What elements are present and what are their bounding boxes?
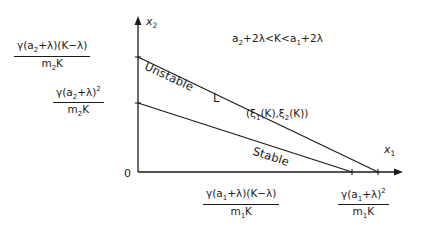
y-axis-label: x2 — [146, 16, 157, 30]
y-intercept-upper-label: γ(a2+λ)(K−λ) m2K — [14, 40, 90, 73]
x-axis-arrowhead — [394, 169, 403, 176]
equilibrium-point-label: (ξ1(K),ξ2(K)) — [246, 108, 308, 122]
origin-label: 0 — [124, 168, 131, 180]
line-L-label: L — [213, 92, 220, 104]
x-intercept-inner-label: γ(a1+λ)(K−λ) m1K — [203, 188, 279, 221]
x-axis-label: x1 — [384, 144, 395, 158]
x-intercept-outer-label: γ(a1+λ)2 m1K — [338, 188, 389, 221]
parameter-condition: a2+2λ<K<a1+2λ — [232, 33, 323, 47]
stable-line-L — [138, 103, 352, 172]
y-axis-arrowhead — [135, 16, 142, 25]
y-intercept-lower-label: γ(a2+λ)2 m2K — [53, 86, 104, 119]
phase-plane-figure: x2 x1 0 a2+2λ<K<a1+2λ Unstable Stable L … — [0, 0, 431, 230]
